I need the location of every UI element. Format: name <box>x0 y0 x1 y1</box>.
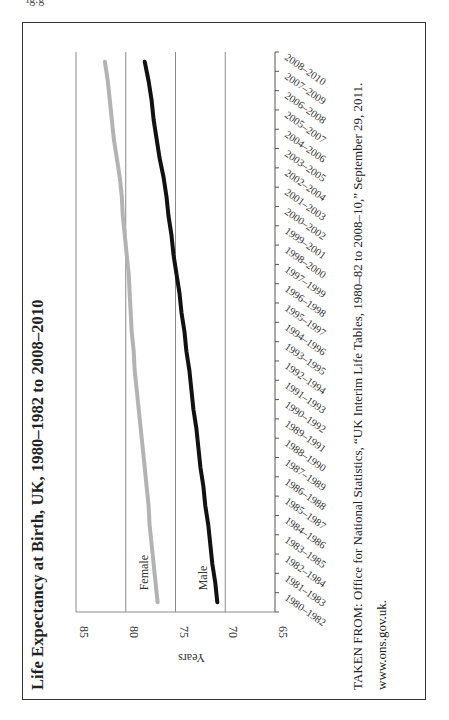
years-tick-label: 80 <box>127 626 141 638</box>
years-tick-label: 65 <box>276 626 290 638</box>
gridlines <box>76 52 275 612</box>
male-line <box>145 62 218 603</box>
line-chart: 6570758085 1980–19821981–19831982–198419… <box>0 0 449 720</box>
period-axis: 1980–19821981–19831982–19841983–19851984… <box>275 51 328 628</box>
female-label: Female <box>137 555 151 590</box>
female-line <box>105 62 158 603</box>
years-axis-ticks: 6570758085 <box>77 626 290 638</box>
male-label: Male <box>196 566 210 591</box>
years-tick-label: 85 <box>77 626 91 638</box>
series-labels: FemaleMale <box>137 555 211 590</box>
series-lines <box>105 62 217 603</box>
years-tick-label: 75 <box>177 626 191 638</box>
years-tick-label: 70 <box>226 626 240 638</box>
years-axis-label: Years <box>178 651 205 665</box>
